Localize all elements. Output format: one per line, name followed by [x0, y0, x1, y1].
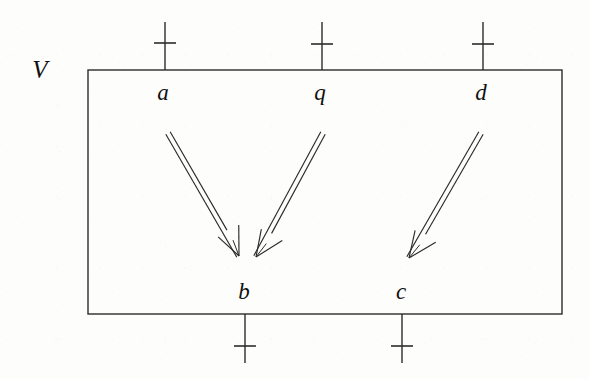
arrow-d-to-c-shaft-left	[407, 132, 479, 257]
arrow-a-to-b-shaft-right	[170, 132, 227, 230]
arrow-a-to-b-shaft-left	[166, 134, 237, 257]
place-label-b: b	[238, 280, 250, 303]
arrow-q-to-b-shaft-left	[254, 132, 321, 256]
container-rect-v	[88, 70, 562, 314]
port-q	[311, 22, 333, 70]
arrow-q-to-b	[254, 132, 325, 257]
arrow-d-to-c	[407, 132, 483, 258]
port-a	[154, 22, 176, 70]
port-b	[234, 314, 256, 363]
diagram-canvas: V a q d b c	[0, 0, 589, 379]
diagram-vector-layer	[0, 0, 589, 379]
port-c	[391, 314, 413, 363]
place-label-d: d	[475, 81, 487, 104]
port-d	[472, 22, 494, 70]
arrow-q-to-b-barb-2	[256, 241, 282, 257]
arrow-a-to-b	[166, 132, 239, 257]
place-label-a: a	[157, 81, 169, 104]
container-label-v: V	[32, 57, 47, 82]
arrow-d-to-c-shaft-right	[426, 134, 484, 234]
arrow-d-to-c-barb-2	[409, 242, 436, 258]
arrows-layer	[166, 132, 483, 258]
place-label-c: c	[396, 280, 406, 303]
arrow-q-to-b-shaft-right	[272, 134, 326, 233]
place-label-q: q	[314, 81, 326, 104]
